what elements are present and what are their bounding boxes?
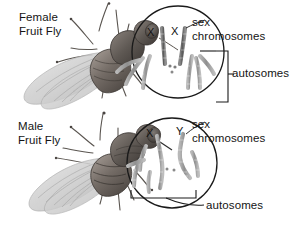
- chromosome-letter-x-female-left: X: [147, 27, 154, 38]
- chromosome-x-male: [157, 136, 162, 188]
- autosomes-label-female: autosomes: [232, 67, 289, 81]
- chromosome-dot-m2: [173, 169, 176, 172]
- sex-chromosomes-label-male: sex chromosomes: [192, 118, 265, 145]
- male-fruit-fly-label: Male Fruit Fly: [18, 120, 60, 147]
- chromosome-letter-x-male: X: [146, 128, 153, 139]
- chromosome-dot-2: [173, 65, 176, 68]
- chromosome-x-right: [180, 28, 185, 64]
- chromosome-dot-3: [171, 71, 174, 74]
- chromosome-autosome-1: [143, 56, 150, 88]
- chromosome-autosome-5: [188, 56, 192, 88]
- chromosome-x-left: [162, 28, 165, 64]
- chromosome-dot-m1: [166, 168, 169, 171]
- male-fly-to-karyotype-arrow-line: [160, 142, 172, 150]
- sex-chromosomes-label-female: sex chromosomes: [192, 16, 265, 43]
- fruit-fly-chromosome-figure: Female Fruit Fly Male Fruit Fly sex chro…: [0, 0, 294, 225]
- chromosome-autosome-m5: [192, 152, 198, 176]
- autosomes-label-male: autosomes: [206, 199, 263, 213]
- chromosome-autosome-m4: [148, 172, 150, 192]
- chromosome-dot-1: [168, 64, 171, 67]
- chromosome-letter-x-female-right: X: [171, 26, 178, 37]
- chromosome-letter-y-male: Y: [176, 126, 183, 137]
- chromosome-autosome-4: [196, 58, 200, 88]
- female-fruit-fly-label: Female Fruit Fly: [19, 11, 61, 38]
- chromosome-autosome-6: [200, 56, 214, 74]
